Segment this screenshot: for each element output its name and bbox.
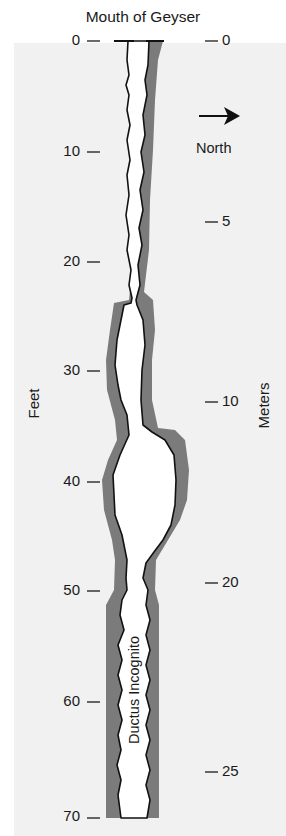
geyser-cross-section — [0, 0, 286, 836]
conduit-label: Ductus Incognito — [126, 648, 142, 744]
north-arrow-icon — [199, 107, 240, 125]
feet-tick-marks — [87, 41, 100, 818]
meters-tick-marks — [205, 41, 218, 772]
